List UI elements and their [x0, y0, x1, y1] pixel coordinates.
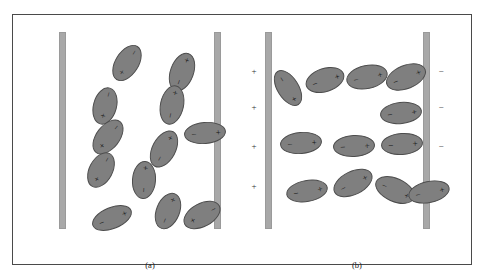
- molecule-positive-charge: +: [415, 68, 423, 78]
- molecule-positive-charge: +: [166, 134, 176, 143]
- molecule-positive-charge: +: [317, 185, 324, 195]
- molecule-negative-charge: −: [340, 143, 346, 152]
- figure-frame: +−+−+−+−+−+−+−+−+−+−+−+−(a) ++++−−−−+−+−…: [12, 14, 472, 265]
- molecule-positive-charge: +: [377, 70, 384, 80]
- molecule: +−: [406, 177, 452, 207]
- molecule-negative-charge: −: [293, 189, 300, 199]
- panel-b-left-plate-charge-2: +: [251, 103, 256, 112]
- molecule-negative-charge: −: [104, 91, 114, 98]
- panel-a-left-plate: [59, 32, 66, 229]
- molecule-negative-charge: −: [415, 190, 422, 200]
- molecule: +−: [379, 100, 423, 126]
- panel-b-cell: ++++−−−−+−+−+−+−+−+−+−+−+−+−+−+−(b): [243, 15, 473, 266]
- panel-b: ++++−−−−+−+−+−+−+−+−+−+−+−+−+−+−(b): [243, 15, 473, 266]
- molecule-positive-charge: +: [182, 57, 192, 65]
- molecule: +−: [279, 130, 323, 156]
- molecule: +−: [332, 134, 375, 158]
- molecule-negative-charge: −: [388, 141, 394, 150]
- molecule-positive-charge: +: [189, 216, 198, 226]
- panel-b-left-plate-charge-3: +: [251, 142, 256, 151]
- panel-a: +−+−+−+−+−+−+−+−+−+−+−+−(a): [13, 15, 243, 266]
- molecule-negative-charge: −: [353, 75, 360, 85]
- molecule-positive-charge: +: [98, 112, 108, 119]
- molecule-negative-charge: −: [160, 217, 170, 225]
- panel-b-left-plate-charge-1: +: [251, 67, 256, 76]
- molecule-negative-charge: −: [287, 140, 293, 149]
- molecule-positive-charge: +: [364, 142, 370, 151]
- molecule-negative-charge: −: [209, 205, 218, 215]
- panel-a-cell: +−+−+−+−+−+−+−+−+−+−+−+−(a): [13, 15, 243, 266]
- panel-a-caption: (a): [145, 260, 154, 270]
- molecule-negative-charge: −: [166, 112, 176, 119]
- molecule-positive-charge: +: [141, 165, 150, 171]
- molecule-positive-charge: +: [168, 196, 178, 204]
- molecule-negative-charge: −: [191, 130, 197, 139]
- molecule-positive-charge: +: [97, 141, 107, 151]
- molecule: +−: [344, 61, 390, 93]
- molecule-negative-charge: −: [98, 218, 106, 228]
- molecule: +−: [380, 132, 423, 157]
- molecule: +−: [81, 148, 120, 193]
- molecule: +−: [302, 62, 347, 97]
- molecule-positive-charge: +: [289, 95, 299, 104]
- panel-b-caption: (b): [352, 260, 362, 270]
- panel-b-left-plate-charge-4: +: [251, 182, 256, 191]
- molecule-negative-charge: −: [111, 123, 121, 133]
- molecule-negative-charge: −: [155, 154, 165, 163]
- panel-b-right-plate-charge-3: −: [438, 142, 443, 151]
- figure-container: +−+−+−+−+−+−+−+−+−+−+−+−(a) ++++−−−−+−+−…: [0, 0, 486, 280]
- molecule-positive-charge: +: [121, 209, 129, 219]
- molecule: +−: [284, 177, 329, 206]
- molecule-negative-charge: −: [380, 181, 388, 191]
- molecule-negative-charge: −: [392, 77, 400, 87]
- molecule: +−: [150, 189, 186, 233]
- molecule-positive-charge: +: [412, 139, 418, 148]
- panel-b-left-plate: [265, 32, 272, 229]
- molecule: +−: [106, 40, 148, 87]
- molecule-negative-charge: −: [276, 75, 286, 84]
- panel-b-right-plate-charge-2: −: [438, 103, 443, 112]
- molecule: +−: [88, 200, 135, 236]
- molecule-positive-charge: +: [411, 108, 417, 117]
- molecule-negative-charge: −: [140, 187, 149, 193]
- molecule-positive-charge: +: [333, 72, 341, 82]
- molecule-positive-charge: +: [439, 185, 446, 195]
- molecule-negative-charge: −: [129, 48, 139, 57]
- molecule-positive-charge: +: [215, 128, 221, 137]
- molecule-negative-charge: −: [102, 156, 112, 165]
- molecule-negative-charge: −: [387, 110, 393, 119]
- molecule-positive-charge: +: [117, 68, 127, 77]
- molecule-positive-charge: +: [311, 138, 317, 147]
- panel-b-right-plate-charge-1: −: [438, 67, 443, 76]
- molecule: +−: [131, 160, 158, 200]
- molecule-positive-charge: +: [171, 89, 181, 96]
- molecule: +−: [329, 163, 377, 203]
- molecule: +−: [268, 65, 308, 111]
- molecule-positive-charge: +: [92, 175, 102, 184]
- molecule-negative-charge: −: [339, 184, 348, 194]
- molecule-positive-charge: +: [361, 173, 370, 183]
- molecule-negative-charge: −: [311, 79, 319, 89]
